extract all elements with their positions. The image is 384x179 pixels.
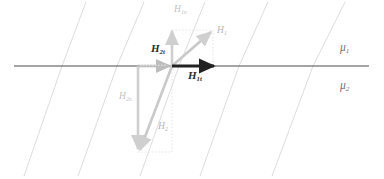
field-lines-group — [24, 2, 345, 176]
field-line-5 — [272, 2, 345, 176]
label-mu2: μ2 — [340, 80, 349, 92]
label-h2t: H2t — [151, 43, 165, 54]
vector-h2t — [138, 65, 170, 66]
label-h1: H1 — [217, 26, 227, 36]
label-h2n: H2n — [119, 92, 132, 102]
label-h1t: H1t — [188, 70, 202, 81]
field-line-3 — [140, 2, 205, 176]
magnetic-boundary-diagram: H1n H1 H2t H1t H2n H2 μ1 μ2 — [0, 0, 384, 179]
field-line-2 — [78, 2, 144, 176]
vector-h1 — [172, 32, 211, 66]
field-line-4 — [200, 2, 268, 176]
vector-h2 — [140, 66, 172, 150]
label-h2: H2 — [158, 122, 168, 132]
diagram-canvas — [0, 0, 384, 179]
label-h1n: H1n — [174, 5, 187, 15]
label-mu1: μ1 — [340, 42, 349, 54]
field-line-1 — [24, 2, 86, 176]
guide-rectangles-group — [138, 30, 213, 152]
